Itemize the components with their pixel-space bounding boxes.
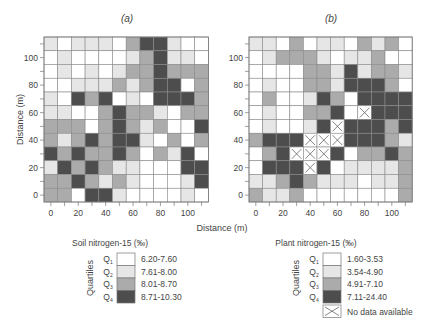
heatmap-cell-q2	[140, 133, 154, 147]
y-tick-label: 100	[24, 53, 38, 63]
heatmap-cell-q1	[167, 175, 181, 189]
x-tick-label: 0	[253, 208, 258, 218]
heatmap-cell-q4	[371, 120, 385, 134]
heatmap-cell-q4	[154, 51, 168, 65]
legend-quartile-subscript: 4	[316, 297, 319, 303]
heatmap-cell-q2	[303, 120, 317, 134]
panel-title: (b)	[325, 13, 337, 24]
heatmap-cell-q2	[126, 78, 140, 92]
heatmap-cell-q4	[331, 106, 345, 120]
heatmap-cell-q1	[85, 51, 99, 65]
heatmap-cell-q4	[344, 120, 358, 134]
heatmap-cell-q2	[85, 37, 99, 51]
x-axis-label: Distance (m)	[196, 223, 247, 233]
heatmap-cell-q3	[303, 106, 317, 120]
legend-swatch-q2	[117, 266, 135, 279]
legend-entry-label: 7.11-24.40	[347, 292, 387, 302]
heatmap-cell-q4	[85, 188, 99, 202]
heatmap-cell-q2	[99, 37, 113, 51]
heatmap-cell-q2	[263, 78, 277, 92]
heatmap-cell-q4	[344, 133, 358, 147]
heatmap-cell-q3	[99, 120, 113, 134]
heatmap-cell-q4	[154, 92, 168, 106]
heatmap-cell-q1	[249, 120, 263, 134]
x-tick-label: 40	[305, 208, 315, 218]
heatmap-cell-q3	[385, 78, 399, 92]
heatmap-cell-q4	[195, 161, 209, 175]
heatmap-cell-q2	[126, 175, 140, 189]
heatmap-cell-q4	[113, 133, 127, 147]
heatmap-cell-q3	[99, 147, 113, 161]
heatmap-cell-q1	[358, 175, 372, 189]
heatmap-cell-q4	[154, 78, 168, 92]
heatmap-cell-q3	[126, 65, 140, 79]
heatmap-cell-q3	[331, 92, 345, 106]
heatmap-cell-q1	[71, 188, 85, 202]
heatmap-cell-q3	[385, 65, 399, 79]
heatmap-cell-q4	[113, 120, 127, 134]
heatmap-cell-q1	[276, 120, 290, 134]
heatmap-cell-q3	[126, 106, 140, 120]
legend-entry-label: 6.20-7.60	[141, 254, 177, 264]
heatmap-cell-q4	[399, 92, 413, 106]
heatmap-cell-q1	[195, 51, 209, 65]
heatmap-cell-q2	[167, 51, 181, 65]
y-tick-label: 0	[33, 190, 38, 200]
heatmap-cell-q4	[399, 106, 413, 120]
heatmap-cell-q2	[99, 175, 113, 189]
heatmap-cell-q3	[154, 147, 168, 161]
heatmap-cell-q2	[113, 161, 127, 175]
legend-quartile-label: Q1	[103, 254, 113, 265]
heatmap-cell-q3	[140, 106, 154, 120]
heatmap-cell-q1	[44, 78, 58, 92]
heatmap-cell-q3	[181, 65, 195, 79]
heatmap-cell-q1	[140, 188, 154, 202]
heatmap-cell-q3	[399, 175, 413, 189]
heatmap-cell-q4	[276, 161, 290, 175]
heatmap-cell-q2	[371, 175, 385, 189]
heatmap-cell-q1	[276, 78, 290, 92]
heatmap-cell-q1	[181, 120, 195, 134]
heatmap-cell-q1	[263, 65, 277, 79]
heatmap-cell-q1	[276, 37, 290, 51]
heatmap-cell-q1	[167, 106, 181, 120]
heatmap-cell-q2	[113, 65, 127, 79]
legend-swatch-q2	[323, 266, 341, 279]
heatmap-cell-q3	[99, 161, 113, 175]
heatmap-cell-q3	[249, 188, 263, 202]
legend-quartile-label: Q2	[309, 267, 319, 278]
heatmap-cell-q3	[113, 78, 127, 92]
heatmap-cell-q3	[181, 106, 195, 120]
legend-swatch-q4	[323, 291, 341, 304]
heatmap-cell-q1	[113, 51, 127, 65]
heatmap-cell-q1	[344, 147, 358, 161]
y-tick-label: 100	[229, 53, 243, 63]
heatmap-cell-q2	[317, 37, 331, 51]
heatmap-cell-q2	[167, 147, 181, 161]
heatmap-cell-q2	[399, 65, 413, 79]
heatmap-cell-q2	[331, 175, 345, 189]
legend-entry-label: 8.71-10.30	[141, 292, 182, 302]
heatmap-cell-q4	[71, 147, 85, 161]
y-tick-label: 80	[29, 80, 39, 90]
heatmap-cell-q3	[154, 120, 168, 134]
heatmap-cell-q3	[276, 175, 290, 189]
heatmap-cell-q2	[126, 92, 140, 106]
legend-quartile-subscript: 4	[110, 297, 113, 303]
y-axis-label: Distance (m)	[15, 94, 25, 145]
heatmap-cell-q3	[44, 188, 58, 202]
heatmap-cell-q3	[71, 161, 85, 175]
heatmap-cell-q2	[58, 106, 72, 120]
heatmap-cell-q2	[331, 65, 345, 79]
legend-quartile-subscript: 1	[316, 259, 319, 265]
heatmap-cell-q3	[167, 65, 181, 79]
x-tick-label: 20	[278, 208, 288, 218]
figure: (a)020406080100020406080100Distance (m)S…	[0, 0, 429, 327]
heatmap-cell-q4	[385, 92, 399, 106]
heatmap-cell-q4	[344, 65, 358, 79]
legend-quartile-label: Q1	[309, 254, 319, 265]
heatmap-cell-q4	[290, 175, 304, 189]
heatmap-cell-q3	[263, 147, 277, 161]
heatmap-cell-q1	[385, 188, 399, 202]
legend-quartile-label: Q3	[309, 279, 319, 290]
